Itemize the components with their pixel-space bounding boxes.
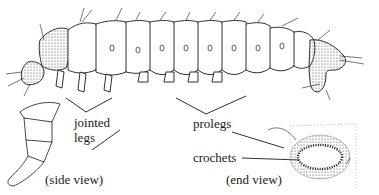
head-capsule [21,62,44,85]
illustration [0,0,379,195]
caterpillar-diagram: jointed legs prolegs crochets (side view… [0,0,379,195]
label-crochets: crochets [193,151,236,164]
label-end-view: (end view) [226,173,282,186]
label-prolegs: prolegs [193,117,231,130]
jointed-legs-leader [66,98,112,112]
caterpillar-body [21,21,345,93]
prolegs-detail-leader [232,132,284,148]
label-jointed-legs-1: jointed [74,116,110,129]
prolegs-leader [176,96,246,114]
label-jointed-legs-2: legs [74,131,95,144]
label-side-view: (side view) [45,173,103,186]
side-view-leader [92,130,120,150]
